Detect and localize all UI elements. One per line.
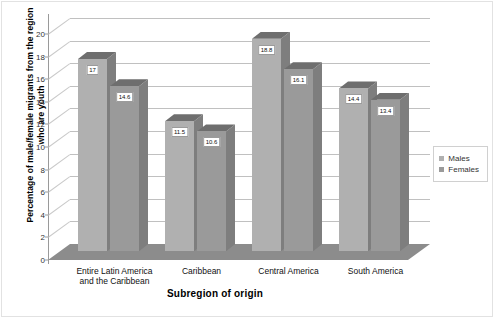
y-tick-mark: [45, 260, 49, 261]
legend-item[interactable]: Males: [439, 154, 479, 163]
gridline-depth: [48, 131, 71, 148]
bar: [371, 100, 400, 251]
y-tick-mark: [45, 147, 49, 148]
y-tick-label: 18: [36, 52, 45, 61]
data-label: 13.4: [377, 106, 395, 116]
gridline-wall: [70, 63, 430, 64]
y-tick-mark: [45, 34, 49, 35]
y-tick-mark: [45, 192, 49, 193]
data-label: 16.1: [290, 75, 308, 85]
bar-side-face: [226, 124, 235, 251]
y-tick-label: 10: [36, 143, 45, 152]
data-label: 14.4: [345, 94, 363, 104]
bar-front-face: [284, 69, 313, 251]
data-label: 17: [86, 65, 99, 75]
bar-front-face: [371, 100, 400, 251]
bar-front-face: [252, 39, 281, 251]
plot-area: 02468101214161820 1711.518.814.414.610.6…: [48, 14, 430, 264]
bar: [165, 121, 194, 251]
legend-label: Females: [448, 165, 479, 174]
bar: [339, 88, 368, 251]
category-label: South America: [321, 266, 430, 276]
bar-front-face: [197, 131, 226, 251]
gridline-wall: [70, 18, 430, 19]
gridline-depth: [48, 63, 71, 80]
bar-front-face: [165, 121, 194, 251]
y-tick-label: 16: [36, 75, 45, 84]
bar-front-face: [339, 88, 368, 251]
gridline-depth: [48, 108, 71, 125]
gridline-depth: [48, 86, 71, 103]
legend-label: Males: [448, 154, 469, 163]
legend: MalesFemales: [433, 146, 488, 182]
gridline-wall: [70, 41, 430, 42]
legend-item[interactable]: Females: [439, 165, 479, 174]
bar-chart: Percentage of male/female migrants from …: [0, 0, 494, 318]
data-label: 11.5: [171, 127, 188, 137]
bar: [252, 39, 281, 251]
data-label: 18.8: [258, 45, 276, 55]
gridline-depth: [48, 221, 71, 238]
y-tick-mark: [45, 169, 49, 170]
y-tick-mark: [45, 101, 49, 102]
bar-side-face: [139, 79, 148, 251]
gridline-depth: [48, 154, 71, 171]
legend-swatch-icon: [439, 167, 444, 172]
gridline-depth: [48, 199, 71, 216]
data-label: 10.6: [203, 137, 221, 147]
bar: [284, 69, 313, 251]
y-tick-mark: [45, 214, 49, 215]
y-tick-label: 14: [36, 97, 45, 106]
bar-side-face: [400, 93, 409, 251]
y-axis-line: [48, 14, 49, 264]
bar-front-face: [78, 59, 107, 251]
gridline-depth: [48, 18, 71, 35]
gridline-depth: [48, 176, 71, 193]
bar-front-face: [110, 86, 139, 251]
y-tick-mark: [45, 124, 49, 125]
data-label: 14.6: [116, 92, 134, 102]
bar: [197, 131, 226, 251]
y-tick-mark: [45, 79, 49, 80]
y-tick-mark: [45, 56, 49, 57]
legend-swatch-icon: [439, 156, 444, 161]
x-axis-title: Subregion of origin: [0, 288, 430, 299]
bar-side-face: [313, 62, 322, 251]
y-tick-label: 12: [36, 120, 45, 129]
gridline-depth: [48, 41, 71, 58]
bar: [110, 86, 139, 251]
y-tick-mark: [45, 237, 49, 238]
bar: [78, 59, 107, 251]
y-tick-label: 20: [36, 30, 45, 39]
